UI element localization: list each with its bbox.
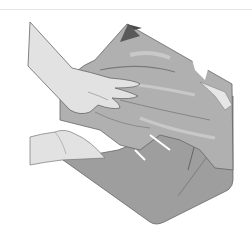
illustration: [0, 0, 252, 252]
